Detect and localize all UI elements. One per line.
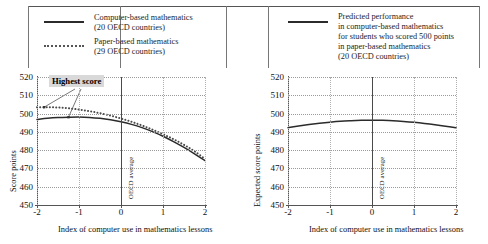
gridline-vertical (79, 77, 80, 205)
x-axis-tick-label: 0 (119, 208, 124, 217)
y-axis-tick-label: 450 (20, 201, 34, 210)
legend-label-paper-based-line2: (29 OECD countries) (94, 47, 165, 57)
y-axis-tick-label: 460 (271, 182, 285, 191)
legend-swatch-dotted (44, 41, 84, 51)
legend-swatch-solid (44, 17, 84, 27)
annotation-marker (67, 116, 69, 118)
y-axis-tick-label: 520 (20, 73, 34, 82)
legend-divider-1 (28, 6, 29, 68)
legend-swatch-predicted (288, 17, 328, 27)
legend-divider-3 (226, 6, 227, 68)
x-axis-tick-label: 1 (412, 208, 417, 217)
legend-divider-4 (268, 6, 269, 68)
legend-label-predicted-line1: Predicted performance (338, 12, 413, 22)
gridline-vertical (205, 77, 206, 205)
oecd-average-line (121, 77, 122, 206)
annotation-marker (43, 106, 45, 108)
y-axis-tick-label: 470 (271, 164, 285, 173)
chart-right-panel: Expected score points 450460470480490500… (244, 70, 488, 244)
y-axis-tick-label: 470 (20, 164, 34, 173)
annotation-leader-line (44, 89, 75, 107)
y-axis-tick-label: 460 (20, 182, 34, 191)
x-axis-label-right: Index of computer use in mathematics les… (309, 225, 463, 234)
annotation-highest-score: Highest score (49, 75, 104, 87)
gridline-vertical (456, 77, 457, 205)
gridline-vertical (163, 77, 164, 205)
y-axis-tick-label: 500 (20, 109, 34, 118)
legend-label-paper-based-line1: Paper-based mathematics (94, 37, 178, 47)
gridline-vertical (288, 77, 289, 205)
gridline-vertical (330, 77, 331, 205)
legend-label-predicted-line5: (20 OECD countries) (338, 52, 409, 62)
plot-area-right: 450460470480490500510520-2-1012OECD aver… (288, 77, 456, 205)
y-axis-tick-label: 480 (271, 146, 285, 155)
legend-label-predicted-line4: in paper-based mathematics (338, 42, 430, 52)
x-axis-label-left: Index of computer use in mathematics les… (58, 225, 212, 234)
plot-area-left: 450460470480490500510520-2-1012OECD aver… (37, 77, 205, 205)
legend-label-computer-based-line2: (20 OECD countries) (94, 23, 165, 33)
y-axis-tick-label: 510 (271, 91, 285, 100)
x-axis-tick-label: 2 (454, 208, 459, 217)
y-axis-tick-label: 450 (271, 201, 285, 210)
oecd-average-label: OECD average (378, 157, 385, 200)
legend-label-predicted-line3: for students who scored 500 points (338, 32, 454, 42)
legend-top-rule (28, 6, 480, 7)
y-axis-tick-label: 480 (20, 146, 34, 155)
y-axis-tick-label: 490 (271, 127, 285, 136)
legend-label-predicted-line2: in computer-based mathematics (338, 22, 443, 32)
x-axis-tick-label: -2 (284, 208, 292, 217)
oecd-average-line (372, 77, 373, 206)
y-axis-tick-label: 510 (20, 91, 34, 100)
x-axis-tick-label: -2 (33, 208, 41, 217)
x-axis-tick-label: -1 (75, 208, 83, 217)
gridline-vertical (414, 77, 415, 205)
legend-divider-5 (479, 6, 480, 68)
y-axis-tick-label: 490 (20, 127, 34, 136)
x-axis-tick-label: 1 (161, 208, 166, 217)
legend-label-computer-based-line1: Computer-based mathematics (94, 13, 193, 23)
chart-left-panel: Score points 450460470480490500510520-2-… (0, 70, 244, 244)
figure-root: Computer-based mathematics (20 OECD coun… (0, 0, 488, 244)
y-axis-label-left: Score points (9, 150, 18, 192)
x-axis-tick-label: -1 (326, 208, 334, 217)
x-axis-tick-label: 2 (203, 208, 208, 217)
y-axis-tick-label: 520 (271, 73, 285, 82)
y-axis-tick-label: 500 (271, 109, 285, 118)
y-axis-label-right: Expected score points (253, 134, 262, 208)
oecd-average-label: OECD average (127, 157, 134, 200)
x-axis-tick-label: 0 (370, 208, 375, 217)
gridline-vertical (37, 77, 38, 205)
legend: Computer-based mathematics (20 OECD coun… (0, 0, 488, 70)
